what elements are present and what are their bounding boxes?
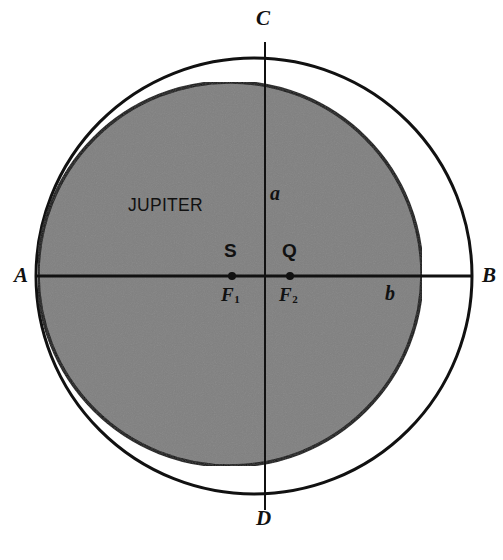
semi-axis-label-a: a [270, 183, 280, 203]
focus-point-1 [228, 272, 236, 280]
focus-label-f1: F1 [221, 285, 239, 304]
planet-name-label: JUPITER [128, 197, 203, 215]
focus-label-f1-subscript: 1 [234, 293, 240, 305]
focus-label-f1-letter: F [221, 284, 234, 305]
diagram-canvas [0, 0, 503, 560]
vertex-label-a: A [14, 265, 28, 286]
focus-label-f2-letter: F [279, 284, 292, 305]
focus-label-f2: F2 [279, 285, 297, 304]
semi-axis-label-b: b [385, 283, 395, 303]
orbital-diagram-figure: A B C D a b S Q F1 F2 JUPITER [0, 0, 503, 560]
focus-label-f2-subscript: 2 [292, 293, 298, 305]
point-label-s: S [224, 241, 237, 260]
point-label-q: Q [282, 241, 297, 260]
vertex-label-b: B [482, 265, 496, 286]
focus-point-2 [286, 272, 294, 280]
vertex-label-c: C [256, 8, 270, 29]
vertex-label-d: D [256, 508, 271, 529]
